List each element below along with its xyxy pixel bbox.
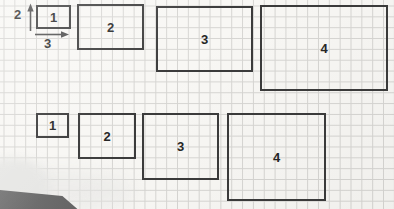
- top-rect-2: 2: [77, 4, 144, 50]
- width-dimension-label: 3: [44, 37, 51, 50]
- rect-label: 2: [103, 130, 110, 143]
- graph-paper-figure: 2 3 1 2 3 4 1 2 3 4: [0, 0, 394, 209]
- bottom-rect-4: 4: [227, 113, 326, 201]
- bottom-rect-3: 3: [142, 113, 219, 180]
- rect-label: 4: [273, 151, 280, 164]
- top-rect-1: 1: [36, 5, 71, 29]
- rect-label: 2: [107, 21, 114, 34]
- top-rect-4: 4: [260, 5, 388, 91]
- bottom-rect-2: 2: [78, 113, 136, 159]
- height-dimension-label: 2: [14, 8, 21, 21]
- bottom-rect-1: 1: [36, 113, 69, 138]
- top-rect-3: 3: [156, 6, 253, 72]
- rect-label: 3: [177, 140, 184, 153]
- rect-label: 1: [50, 11, 57, 24]
- rect-label: 3: [201, 33, 208, 46]
- rect-label: 1: [49, 119, 56, 132]
- rect-label: 4: [320, 42, 327, 55]
